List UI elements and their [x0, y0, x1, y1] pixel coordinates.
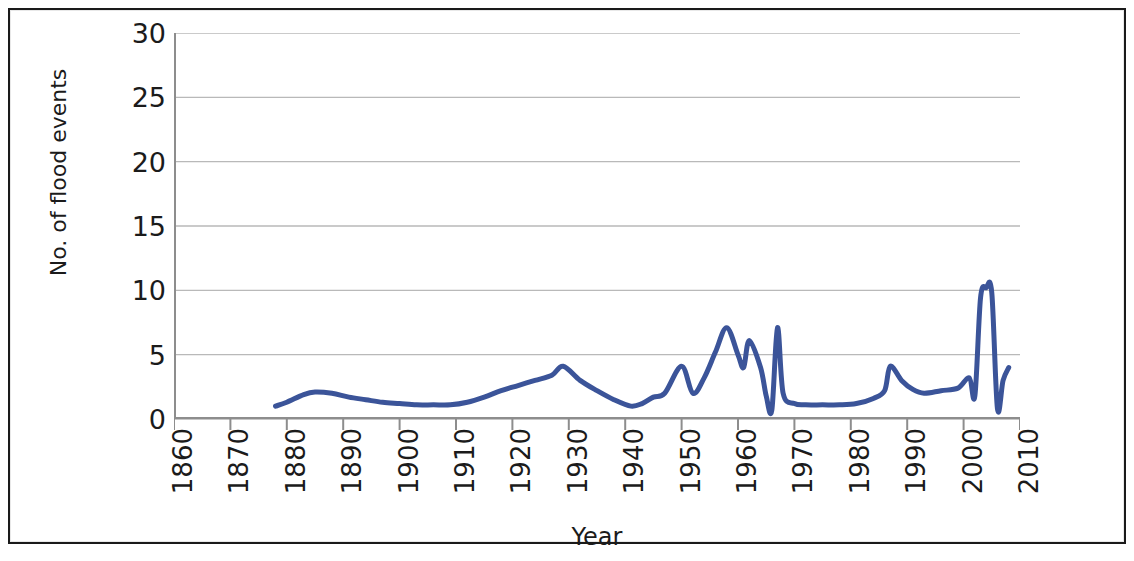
y-tick-label-30: 30 [102, 20, 166, 47]
x-tick-label-text: 1980 [847, 428, 873, 494]
y-tick-label-10: 10 [102, 277, 166, 304]
x-tick-label-1960: 1960 [747, 428, 773, 494]
y-tick-label-15: 15 [102, 213, 166, 240]
y-tick-label-20: 20 [102, 148, 166, 175]
x-tick-label-text: 1940 [621, 428, 647, 494]
x-tick-label-1990: 1990 [916, 428, 942, 494]
plot-area [174, 33, 1020, 419]
x-tick-label-1970: 1970 [803, 428, 829, 494]
x-tick-label-text: 1970 [790, 428, 816, 494]
series-line-0 [276, 282, 1009, 413]
x-tick-label-1940: 1940 [634, 428, 660, 494]
x-tick-label-text: 1990 [903, 428, 929, 494]
x-axis-title: Year [174, 523, 1020, 551]
x-tick-label-2010: 2010 [1029, 428, 1055, 494]
y-tick-label-5: 5 [102, 341, 166, 368]
x-tick-label-2000: 2000 [973, 428, 999, 494]
x-tick-label-text: 1920 [508, 428, 534, 494]
x-tick-label-1980: 1980 [860, 428, 886, 494]
y-axis-title: No. of flood events [46, 53, 71, 293]
x-tick-label-text: 1930 [565, 428, 591, 494]
x-tick-label-text: 1900 [396, 428, 422, 494]
x-tick-label-1900: 1900 [409, 428, 435, 494]
x-tick-label-1890: 1890 [352, 428, 378, 494]
x-tick-label-text: 1910 [452, 428, 478, 494]
x-tick-label-text: 1960 [734, 428, 760, 494]
x-axis-tick-labels: 1860187018801890190019101920193019401950… [174, 424, 1020, 524]
flood-events-chart-figure: 051015202530 No. of flood events 1860187… [0, 0, 1134, 561]
x-tick-label-1950: 1950 [691, 428, 717, 494]
x-tick-label-text: 1870 [226, 428, 252, 494]
x-tick-label-text: 1860 [170, 428, 196, 494]
x-tick-label-text: 1890 [339, 428, 365, 494]
gridlines [174, 33, 1020, 355]
x-tick-label-1860: 1860 [183, 428, 209, 494]
x-tick-label-text: 2000 [960, 428, 986, 494]
x-tick-label-1920: 1920 [521, 428, 547, 494]
x-tick-label-text: 2010 [1016, 428, 1042, 494]
x-tick-label-1910: 1910 [465, 428, 491, 494]
x-tick-label-1870: 1870 [239, 428, 265, 494]
plot-svg [174, 33, 1020, 433]
x-tick-label-1930: 1930 [578, 428, 604, 494]
x-tick-label-text: 1950 [678, 428, 704, 494]
x-tick-label-text: 1880 [283, 428, 309, 494]
x-tick-label-1880: 1880 [296, 428, 322, 494]
data-series-group [276, 282, 1009, 413]
y-tick-label-0: 0 [102, 406, 166, 433]
y-axis-tick-labels: 051015202530 [92, 33, 166, 419]
y-tick-label-25: 25 [102, 84, 166, 111]
